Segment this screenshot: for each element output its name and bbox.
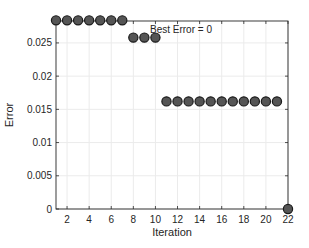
data-point-marker xyxy=(85,16,94,25)
x-axis-label: Iteration xyxy=(152,226,192,238)
data-point-marker xyxy=(184,97,193,106)
data-point-marker xyxy=(217,97,226,106)
x-tick-label: 22 xyxy=(282,214,294,225)
x-tick-label: 20 xyxy=(260,214,272,225)
x-tick-label: 2 xyxy=(64,214,70,225)
plot-border xyxy=(56,21,288,209)
x-tick-label: 16 xyxy=(216,214,228,225)
data-point-marker xyxy=(96,16,105,25)
x-tick-label: 18 xyxy=(238,214,250,225)
data-point-marker xyxy=(129,33,138,42)
data-point-marker xyxy=(107,16,116,25)
data-point-marker xyxy=(118,16,127,25)
data-point-marker xyxy=(283,204,292,213)
data-point-marker xyxy=(62,16,71,25)
best-error-annotation: Best Error = 0 xyxy=(150,24,212,35)
y-tick-label: 0.025 xyxy=(27,37,52,48)
data-point-marker xyxy=(239,97,248,106)
data-point-marker xyxy=(228,97,237,106)
data-point-marker xyxy=(261,97,270,106)
data-point-marker xyxy=(250,97,259,106)
x-tick-label: 10 xyxy=(150,214,162,225)
x-tick-label: 12 xyxy=(172,214,184,225)
y-tick-label: 0 xyxy=(46,204,52,215)
axes xyxy=(56,21,288,209)
grid-lines xyxy=(56,21,288,209)
y-tick-label: 0.015 xyxy=(27,104,52,115)
data-point-marker xyxy=(206,97,215,106)
x-tick-label: 6 xyxy=(108,214,114,225)
data-point-marker xyxy=(51,16,60,25)
data-point-marker xyxy=(73,16,82,25)
error-chart: 24681012141618202200.0050.010.0150.020.0… xyxy=(0,0,309,248)
data-point-marker xyxy=(173,97,182,106)
data-point-marker xyxy=(195,97,204,106)
data-point-marker xyxy=(162,97,171,106)
x-tick-label: 14 xyxy=(194,214,206,225)
y-tick-label: 0.005 xyxy=(27,170,52,181)
y-tick-label: 0.02 xyxy=(33,71,53,82)
y-axis-label: Error xyxy=(3,102,15,127)
x-tick-label: 4 xyxy=(86,214,92,225)
data-point-marker xyxy=(272,97,281,106)
y-tick-label: 0.01 xyxy=(33,137,53,148)
data-point-marker xyxy=(140,33,149,42)
x-tick-label: 8 xyxy=(131,214,137,225)
data-points xyxy=(51,16,292,214)
